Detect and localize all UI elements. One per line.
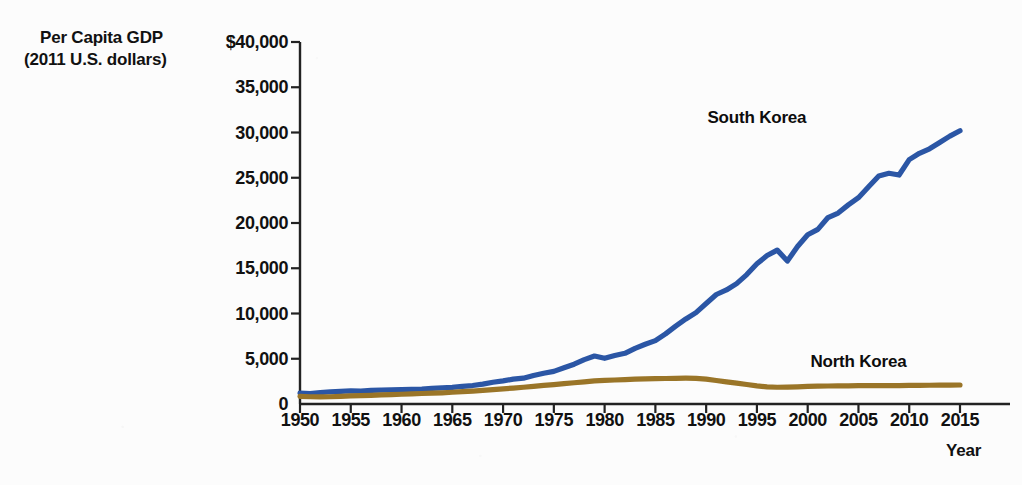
plot-area	[0, 0, 1022, 485]
series-line-south-korea	[300, 131, 960, 394]
chart-page: Per Capita GDP (2011 U.S. dollars) Year …	[0, 0, 1022, 485]
axis-lines	[291, 42, 1010, 413]
data-series	[300, 131, 960, 397]
